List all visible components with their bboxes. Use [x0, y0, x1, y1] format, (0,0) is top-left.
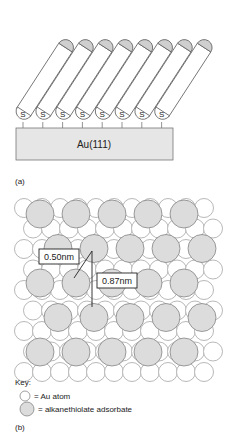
adsorbate: [26, 338, 54, 366]
au-atom: [24, 301, 43, 320]
adsorbate: [62, 200, 90, 228]
adsorbate: [152, 235, 180, 263]
sulfur-label: S: [139, 110, 144, 119]
au-atom: [123, 363, 142, 382]
au-atom: [15, 240, 34, 259]
sulfur-label: S: [80, 110, 85, 119]
au-atom: [204, 260, 223, 279]
substrate-label: Au(111): [77, 139, 111, 150]
au-atom: [15, 322, 34, 341]
figure: SSSSSSSS Au(111) (a) 0.50nm 0.87nm Key: …: [0, 0, 235, 438]
adsorbate: [98, 200, 126, 228]
adsorbate: [26, 200, 54, 228]
adsorbate: [98, 338, 126, 366]
au-atom: [87, 363, 106, 382]
sulfur-label: S: [119, 110, 124, 119]
adsorbate: [188, 304, 216, 332]
adsorbate: [152, 304, 180, 332]
adsorbate: [80, 304, 108, 332]
adsorbate: [62, 269, 90, 297]
sulfur-label: S: [20, 110, 25, 119]
adsorbate: [134, 200, 162, 228]
key-adsorbate-label: = alkanethiolate adsorbate: [38, 405, 133, 414]
key-title: Key:: [15, 378, 31, 387]
sulfur-label: S: [40, 110, 45, 119]
distance-label-1: 0.50nm: [44, 252, 74, 262]
adsorbate: [170, 338, 198, 366]
adsorbate: [62, 338, 90, 366]
au-atom: [195, 363, 214, 382]
adsorbate: [44, 304, 72, 332]
adsorbate: [188, 235, 216, 263]
adsorbate: [116, 235, 144, 263]
au-atom: [204, 342, 223, 361]
adsorbate: [26, 269, 54, 297]
sulfur-label: S: [100, 110, 105, 119]
s-au-bonds: [23, 122, 162, 128]
au-atom: [51, 363, 70, 382]
distance-label-2: 0.87nm: [102, 276, 132, 286]
alkanethiol-molecules: SSSSSSSS: [13, 37, 215, 123]
au-atom-key-icon: [20, 391, 30, 401]
caption-b: (b): [15, 423, 25, 432]
adsorbate: [134, 269, 162, 297]
key-au-label: = Au atom: [34, 392, 71, 401]
lattice-diagram: [15, 199, 223, 382]
adsorbate: [170, 200, 198, 228]
sulfur-label: S: [159, 110, 164, 119]
adsorbate: [170, 269, 198, 297]
adsorbate-key-icon: [20, 402, 34, 416]
caption-a: (a): [15, 177, 25, 186]
sulfur-label: S: [60, 110, 65, 119]
adsorbate: [134, 338, 162, 366]
adsorbate: [80, 235, 108, 263]
au-atom: [159, 363, 178, 382]
adsorbate: [116, 304, 144, 332]
